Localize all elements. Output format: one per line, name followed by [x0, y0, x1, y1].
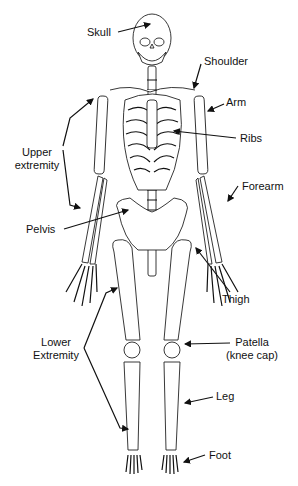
label-thigh: Thigh [222, 293, 250, 306]
label-pelvis: Pelvis [26, 223, 55, 236]
skeleton-diagram: Skull Shoulder Arm Ribs Upper extremity … [0, 0, 298, 486]
label-foot: Foot [209, 449, 231, 462]
label-lower-extremity: Lower Extremity [30, 336, 82, 362]
label-upper-extremity: Upper extremity [12, 146, 62, 172]
ribcage [123, 94, 181, 190]
skeleton-drawing [0, 0, 298, 486]
label-upper-extremity-line2: extremity [12, 159, 62, 172]
skull-bone [133, 14, 171, 65]
label-lower-extremity-line2: Extremity [30, 349, 82, 362]
label-ribs: Ribs [240, 132, 262, 145]
label-patella: Patella (knee cap) [222, 336, 282, 362]
label-lower-extremity-line1: Lower [30, 336, 82, 349]
label-patella-line2: (knee cap) [222, 349, 282, 362]
label-forearm: Forearm [242, 180, 284, 193]
label-arm: Arm [226, 96, 246, 109]
label-upper-extremity-line1: Upper [12, 146, 62, 159]
label-shoulder: Shoulder [204, 55, 248, 68]
label-skull: Skull [87, 26, 111, 39]
label-leg: Leg [216, 390, 234, 403]
label-patella-line1: Patella [222, 336, 282, 349]
